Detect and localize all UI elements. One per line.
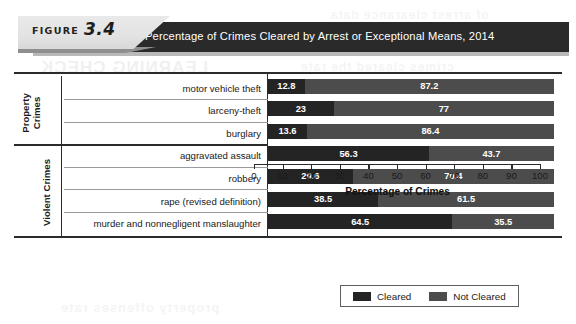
bar-segment-not-cleared: 43.7 xyxy=(429,146,554,161)
x-axis-tick-label: 20 xyxy=(296,170,326,181)
row-separator xyxy=(64,99,268,100)
bar-segment-cleared: 56.3 xyxy=(268,146,429,161)
group-label-violent-crimes: Violent Crimes xyxy=(41,158,52,228)
row-separator xyxy=(64,189,268,190)
bar-segment-not-cleared: 86.4 xyxy=(307,124,554,139)
figure-label: FIGURE xyxy=(32,25,79,36)
bar-segment-not-cleared: 77 xyxy=(334,101,554,116)
category-label: rape (revised definition) xyxy=(61,196,261,207)
chart-area: Property Crimes Violent Crimes motor veh… xyxy=(14,72,562,244)
bar-segment-not-cleared: 35.5 xyxy=(452,214,554,229)
x-axis-tick xyxy=(368,164,369,169)
figure-title: Percentage of Crimes Cleared by Arrest o… xyxy=(145,30,494,42)
group-label-property-line2: Crimes xyxy=(31,78,42,148)
bar-segment-cleared: 12.8 xyxy=(268,79,305,94)
figure-header: Percentage of Crimes Cleared by Arrest o… xyxy=(0,0,576,62)
row-separator xyxy=(64,167,268,168)
x-axis-tick-label: 40 xyxy=(353,170,383,181)
x-axis-tick xyxy=(283,164,284,169)
x-axis-tick-label: 30 xyxy=(325,170,355,181)
row-separator xyxy=(64,212,268,213)
bleed-through-text-c: property offenses rate xyxy=(60,300,219,315)
x-axis-tick xyxy=(254,164,255,169)
x-axis-tick xyxy=(483,164,484,169)
row-separator xyxy=(64,122,268,123)
x-axis-tick-label: 90 xyxy=(496,170,526,181)
x-axis-tick-label: 70 xyxy=(439,170,469,181)
x-axis-tick-label: 80 xyxy=(468,170,498,181)
x-axis-tick xyxy=(397,164,398,169)
figure-number: 3.4 xyxy=(84,19,116,39)
x-axis-tick-label: 0 xyxy=(239,170,269,181)
chart-legend: ClearedNot Cleared xyxy=(340,285,519,307)
category-label: aggravated assault xyxy=(61,150,261,161)
plot-area: 12.887.2237713.686.456.343.729.670.438.5… xyxy=(268,74,562,236)
category-label: murder and nonnegligent manslaughter xyxy=(61,218,261,229)
group-label-property-crimes: Property Crimes xyxy=(20,78,42,148)
x-axis-tick-label: 50 xyxy=(382,170,412,181)
bar-segment-not-cleared: 87.2 xyxy=(305,79,554,94)
bar-segment-cleared: 64.5 xyxy=(268,214,452,229)
x-axis-tick xyxy=(511,164,512,169)
x-axis-tick xyxy=(340,164,341,169)
bar-row: 12.887.2 xyxy=(268,79,554,94)
bar-row: 56.343.7 xyxy=(268,146,554,161)
bar-row: 64.535.5 xyxy=(268,214,554,229)
bar-segment-cleared: 23 xyxy=(268,101,334,116)
category-label-panel: Property Crimes Violent Crimes motor veh… xyxy=(14,74,268,236)
category-label: burglary xyxy=(61,128,261,139)
x-axis-tick-label: 60 xyxy=(411,170,441,181)
category-label: robbery xyxy=(61,173,261,184)
legend-item: Not Cleared xyxy=(429,291,505,302)
legend-swatch-icon xyxy=(429,292,447,301)
x-axis-tick xyxy=(311,164,312,169)
bar-row: 13.686.4 xyxy=(268,124,554,139)
x-axis-tick xyxy=(540,164,541,169)
x-axis-title: Percentage of Crimes xyxy=(254,186,541,197)
group-label-property-line1: Property xyxy=(20,78,31,148)
legend-item: Cleared xyxy=(353,291,411,302)
legend-label: Cleared xyxy=(377,291,411,302)
legend-label: Not Cleared xyxy=(453,291,505,302)
x-axis: Percentage of Crimes 0102030405060708090… xyxy=(254,164,548,204)
x-axis-tick-label: 100 xyxy=(525,170,555,181)
x-axis-tick xyxy=(454,164,455,169)
legend-swatch-icon xyxy=(353,292,371,301)
category-label: larceny-theft xyxy=(61,105,261,116)
category-labels: motor vehicle theftlarceny-theftburglary… xyxy=(64,76,266,238)
bar-segment-cleared: 13.6 xyxy=(268,124,307,139)
bar-row: 2377 xyxy=(268,101,554,116)
x-axis-tick xyxy=(426,164,427,169)
x-axis-tick-label: 10 xyxy=(268,170,298,181)
category-label: motor vehicle theft xyxy=(61,83,261,94)
